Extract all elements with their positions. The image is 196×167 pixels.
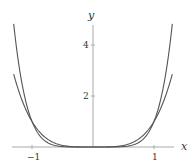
x-tick-label: 1	[152, 152, 158, 162]
y-tick-label: 2	[83, 91, 89, 101]
y-axis-label: y	[87, 9, 95, 22]
axes: −11 24 x y	[12, 9, 188, 162]
chart: −11 24 x y	[0, 0, 196, 167]
x-tick-label: −1	[27, 152, 40, 162]
x-axis-label: x	[181, 140, 188, 153]
y-tick-label: 4	[83, 40, 89, 50]
